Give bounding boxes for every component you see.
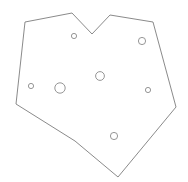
shape-svg — [0, 0, 188, 182]
outer-boundary-path — [16, 13, 176, 177]
hole-left-small — [28, 83, 33, 88]
hole-top-right — [138, 37, 145, 44]
drawing-canvas — [0, 0, 188, 182]
hole-bottom — [110, 132, 117, 139]
hole-center — [96, 72, 105, 81]
hole-right-small — [145, 87, 150, 92]
hole-left-large — [55, 83, 65, 93]
hole-top-left — [71, 33, 76, 38]
